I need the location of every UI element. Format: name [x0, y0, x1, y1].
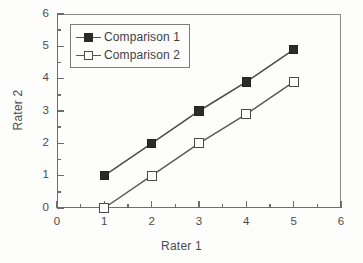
y-tick-label: 2 [25, 136, 49, 148]
y-tick-label: 4 [25, 71, 49, 83]
data-point-open-square [289, 77, 299, 87]
data-point-open-square [241, 109, 251, 119]
chart-figure: 01234560123456 Comparison 1 Comparison 2… [0, 0, 363, 263]
x-tick-label: 5 [282, 215, 306, 227]
data-point-open-square [147, 171, 157, 181]
data-point-open-square [99, 203, 109, 213]
legend-item-comparison-2: Comparison 2 [76, 46, 189, 64]
filled-square-marker-icon [76, 31, 101, 43]
x-tick-label: 4 [234, 215, 258, 227]
y-tick-label: 3 [25, 104, 49, 116]
data-point-filled-square [100, 171, 110, 181]
y-axis-title: Rater 2 [11, 70, 25, 150]
x-tick-label: 2 [140, 215, 164, 227]
x-tick-label: 6 [329, 215, 353, 227]
data-point-open-square [194, 138, 204, 148]
x-axis-title: Rater 1 [0, 239, 363, 253]
legend: Comparison 1 Comparison 2 [70, 24, 190, 68]
y-tick-label: 5 [25, 39, 49, 51]
legend-item-comparison-1: Comparison 1 [76, 28, 189, 46]
y-tick-label: 0 [25, 201, 49, 213]
y-tick-label: 6 [25, 7, 49, 19]
y-tick-label: 1 [25, 168, 49, 180]
data-point-filled-square [242, 77, 252, 87]
data-point-filled-square [194, 106, 204, 116]
legend-label-comparison-2: Comparison 2 [104, 48, 180, 62]
data-point-filled-square [289, 45, 299, 55]
x-tick-label: 1 [92, 215, 116, 227]
legend-label-comparison-1: Comparison 1 [104, 30, 180, 44]
data-point-filled-square [147, 139, 157, 149]
open-square-marker-icon [76, 49, 101, 61]
x-tick-label: 3 [187, 215, 211, 227]
x-tick-label: 0 [45, 215, 69, 227]
